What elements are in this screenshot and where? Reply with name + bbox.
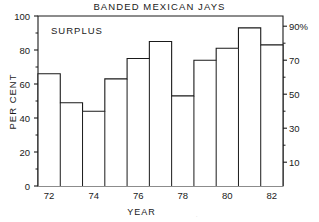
bar-series-outline — [38, 28, 283, 186]
page-artifact: . — [196, 212, 198, 218]
plot-area — [0, 0, 319, 222]
chart-figure: BANDED MEXICAN JAYS SURPLUS BREEDING PER… — [0, 0, 319, 222]
